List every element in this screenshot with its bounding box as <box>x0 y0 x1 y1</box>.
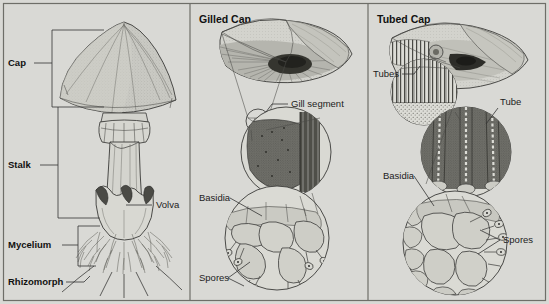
label-rhizomorph: Rhizomorph <box>8 276 64 287</box>
mushroom-anatomy-figure: Cap Stalk Volva Mycelium Rhizomorph Gill… <box>0 0 549 304</box>
tube-wall-magnified <box>421 107 511 197</box>
gill-surface-magnified <box>241 107 331 197</box>
label-volva: Volva <box>156 199 180 210</box>
mushroom-ring <box>99 113 150 146</box>
label-tubes: Tubes <box>373 68 399 79</box>
header-tubed-cap: Tubed Cap <box>377 13 430 25</box>
label-mycelium: Mycelium <box>8 239 51 250</box>
label-spores-tubed: Spores <box>503 234 533 245</box>
diagram-canvas: Cap Stalk Volva Mycelium Rhizomorph Gill… <box>0 0 549 304</box>
label-basidia-gilled: Basidia <box>199 192 231 203</box>
label-gill-segment: Gill segment <box>291 98 344 109</box>
label-spores-gilled: Spores <box>199 272 229 283</box>
label-cap: Cap <box>8 57 26 68</box>
label-tube: Tube <box>500 96 521 107</box>
label-basidia-tubed: Basidia <box>383 170 415 181</box>
label-stalk: Stalk <box>8 159 31 170</box>
